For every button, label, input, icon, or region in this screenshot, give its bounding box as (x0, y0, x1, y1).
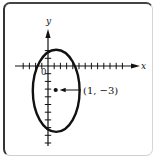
center-point (54, 88, 58, 92)
x-axis-label: x (141, 61, 146, 71)
origin-label: 0 (41, 67, 46, 77)
y-axis-label: y (45, 16, 52, 26)
point-label: (1, −3) (83, 85, 118, 96)
leader-arrow-icon (60, 88, 66, 93)
x-axis-arrow-icon (131, 63, 140, 68)
ellipse-figure: x y 0 (1, −3) (0, 0, 156, 159)
plot-area: x y 0 (1, −3) (0, 0, 156, 159)
y-axis-arrow-icon (45, 29, 50, 38)
